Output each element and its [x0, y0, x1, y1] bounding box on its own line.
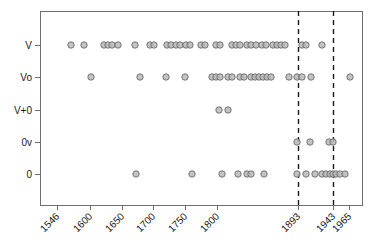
series-Vo	[88, 74, 353, 80]
y-axis-label-V: V	[25, 40, 32, 51]
data-point	[163, 74, 169, 80]
series-V	[68, 42, 325, 48]
data-point	[182, 74, 188, 80]
data-point	[229, 74, 235, 80]
series-V+0	[216, 107, 231, 113]
data-point	[235, 171, 241, 177]
y-axis-label-Vo: Vo	[20, 72, 32, 83]
data-point	[294, 139, 300, 145]
data-point	[151, 42, 157, 48]
data-point	[132, 42, 138, 48]
x-axis-label-1650: 1650	[103, 210, 127, 234]
data-point	[133, 171, 139, 177]
data-point	[330, 139, 336, 145]
data-point	[109, 42, 115, 48]
data-point	[216, 107, 222, 113]
data-point	[88, 74, 94, 80]
x-axis-label-1700: 1700	[134, 210, 158, 234]
data-point	[294, 171, 300, 177]
data-point	[217, 42, 223, 48]
data-point	[303, 42, 309, 48]
data-point	[303, 171, 309, 177]
data-point	[312, 171, 318, 177]
x-axis-labels: 154616001650170017501800189319431965	[38, 210, 354, 234]
data-point	[263, 42, 269, 48]
series-0v	[294, 139, 336, 145]
data-point	[308, 74, 314, 80]
data-point	[347, 74, 353, 80]
data-point	[217, 74, 223, 80]
data-point	[241, 74, 247, 80]
x-axis-label-1893: 1893	[279, 210, 303, 234]
plot-canvas: VVoV+00v0 154616001650170017501800189319…	[0, 0, 381, 247]
x-axis-label-1800: 1800	[198, 210, 222, 234]
data-point	[307, 139, 313, 145]
y-axis-label-V+0: V+0	[14, 105, 33, 116]
data-points	[68, 42, 353, 177]
data-point	[261, 171, 267, 177]
data-point	[319, 42, 325, 48]
data-point	[219, 171, 225, 177]
x-axis-label-1600: 1600	[71, 210, 95, 234]
data-point	[237, 42, 243, 48]
data-point	[177, 42, 183, 48]
data-point	[253, 42, 259, 48]
data-point	[268, 74, 274, 80]
scatter-plot-figure: VVoV+00v0 154616001650170017501800189319…	[0, 0, 381, 247]
data-point	[286, 74, 292, 80]
data-point	[115, 42, 121, 48]
x-axis-label-1965: 1965	[330, 210, 354, 234]
data-point	[225, 107, 231, 113]
x-axis-label-1546: 1546	[38, 210, 62, 234]
data-point	[68, 42, 74, 48]
x-axis-label-1750: 1750	[166, 210, 190, 234]
data-point	[189, 171, 195, 177]
data-point	[248, 171, 254, 177]
y-axis-label-0v: 0v	[21, 137, 32, 148]
data-point	[202, 42, 208, 48]
y-axis-label-0: 0	[26, 169, 32, 180]
data-point	[187, 42, 193, 48]
series-0	[133, 171, 348, 177]
data-point	[342, 171, 348, 177]
data-point	[137, 74, 143, 80]
data-point	[299, 74, 305, 80]
y-axis-ticks	[35, 46, 40, 175]
y-axis-labels: VVoV+00v0	[14, 40, 33, 180]
data-point	[282, 42, 288, 48]
data-point	[81, 42, 87, 48]
